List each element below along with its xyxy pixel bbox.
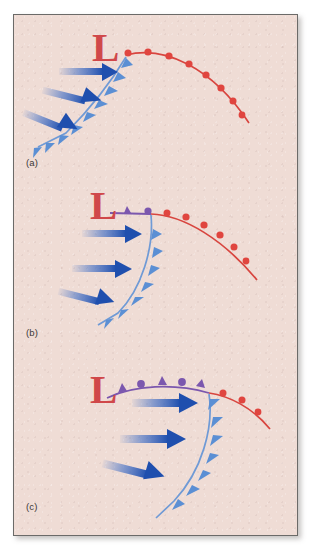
panel-c-graphic [14, 355, 297, 535]
warm-front-bumps-b [164, 210, 250, 265]
panel-label-b: (b) [26, 327, 38, 338]
panel-b-graphic [14, 185, 297, 361]
panel-c: L (c) [14, 355, 297, 535]
low-pressure-marker-a: L [92, 27, 119, 68]
low-pressure-marker-b: L [90, 185, 117, 226]
cold-air-arrows-b [58, 225, 142, 309]
cold-air-arrows-a [22, 63, 118, 135]
figure-panel: L (a) [13, 14, 298, 536]
panel-a-graphic [14, 15, 297, 191]
warm-front-bumps-a [125, 48, 246, 118]
panel-label-c: (c) [26, 501, 38, 512]
panel-b: L (b) [14, 185, 297, 361]
warm-front-bumps-c [220, 390, 262, 416]
low-pressure-marker-c: L [90, 369, 117, 410]
panel-a: L (a) [14, 15, 297, 191]
cold-front-barbs-b [104, 229, 163, 329]
occlusion-figure: L (a) [0, 0, 310, 548]
cold-front-line-c [156, 394, 210, 518]
panel-label-a: (a) [26, 157, 38, 168]
